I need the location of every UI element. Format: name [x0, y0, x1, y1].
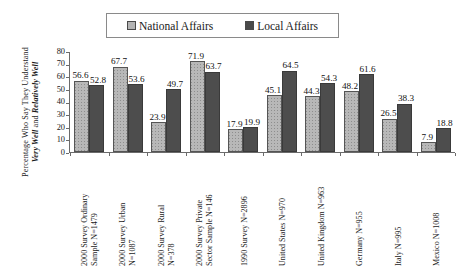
bar-wrapper: 71.9	[190, 52, 205, 152]
x-axis-category-label: 2000 Survey UrbanN=1087	[118, 154, 140, 266]
bar-local: 18.8	[436, 128, 451, 152]
bar-wrapper: 38.3	[397, 52, 412, 152]
bar-value-label: 38.3	[398, 94, 414, 103]
x-axis-category-line: 1990 Survey N=2896	[240, 196, 250, 266]
y-axis-tick-mark	[66, 52, 69, 53]
x-axis-category-label: Mexico N=1008	[432, 154, 454, 266]
bar-wrapper: 49.7	[166, 52, 181, 152]
chart-legend: National Affairs Local Affairs	[106, 13, 339, 38]
bar-group: 48.261.6	[340, 52, 379, 152]
legend-item-local-affairs: Local Affairs	[245, 20, 318, 32]
bar-wrapper: 53.6	[128, 52, 143, 152]
x-axis-category-label: 2000 Survey RuralN=378	[157, 154, 179, 266]
bar-wrapper: 48.2	[344, 52, 359, 152]
bar-group: 23.949.7	[147, 52, 186, 152]
bar-group: 17.919.9	[224, 52, 263, 152]
x-axis-category-label: 1990 Survey N=2896	[240, 154, 262, 266]
bar-local: 38.3	[397, 104, 412, 152]
y-axis-tick-mark	[66, 153, 69, 154]
plot-area: 01020304050607080 56.652.867.753.623.949…	[69, 52, 455, 153]
bar-wrapper: 26.5	[382, 52, 397, 152]
y-axis-title-line2: Very Well and Relatively Well	[31, 62, 42, 163]
bar-value-label: 49.7	[167, 80, 183, 89]
bar-national: 45.1	[267, 95, 282, 152]
legend-label-national: National Affairs	[139, 20, 213, 32]
bar-wrapper: 52.8	[89, 52, 104, 152]
bar-wrapper: 67.7	[113, 52, 128, 152]
bar-value-label: 23.9	[149, 113, 165, 122]
bar-national: 67.7	[113, 67, 128, 152]
y-axis-tick-mark	[66, 140, 69, 141]
bar-national: 56.6	[74, 81, 89, 152]
x-axis-category-label: 2000 Survey OrdinarySample N=1479	[80, 154, 102, 266]
y-axis-tick-mark	[66, 90, 69, 91]
x-axis-category-line: United Kingdom N=963	[317, 187, 327, 266]
bar-local: 49.7	[166, 89, 181, 152]
bar-value-label: 64.5	[282, 61, 298, 70]
y-axis-tick-label: 30	[49, 111, 65, 119]
y-axis-tick-mark	[66, 103, 69, 104]
x-axis-labels: 2000 Survey OrdinarySample N=14792000 Su…	[70, 154, 456, 266]
x-axis-category-label: United States N=970	[278, 154, 300, 266]
bar-local: 53.6	[128, 84, 143, 152]
bar-value-label: 56.6	[72, 71, 88, 80]
bar-value-label: 48.2	[342, 82, 358, 91]
bar-local: 19.9	[243, 127, 258, 152]
legend-item-national-affairs: National Affairs	[127, 20, 213, 32]
x-axis-category-line: 2000 Survey Rural	[156, 205, 166, 266]
bar-wrapper: 44.3	[305, 52, 320, 152]
y-axis-title-line1: Percentage Who Say They Understand	[21, 47, 32, 177]
bar-group: 26.538.3	[378, 52, 417, 152]
bar-value-label: 54.3	[321, 74, 337, 83]
x-axis-category-line: United States N=970	[278, 198, 288, 266]
x-axis-category-line: 2000 Survey Urban	[118, 203, 128, 266]
bar-wrapper: 54.3	[320, 52, 335, 152]
bar-wrapper: 63.7	[205, 52, 220, 152]
x-axis-category-label: 2000 Survey PrivateSector Sample N=146	[195, 154, 217, 266]
bar-value-label: 19.9	[244, 118, 260, 127]
bar-value-label: 61.6	[359, 65, 375, 74]
bar-value-label: 71.9	[188, 52, 204, 61]
bar-group: 67.753.6	[109, 52, 148, 152]
bar-wrapper: 61.6	[359, 52, 374, 152]
y-axis-tick-label: 80	[49, 48, 65, 56]
x-axis-category-label: Italy N=995	[394, 154, 416, 266]
bar-wrapper: 45.1	[267, 52, 282, 152]
bar-wrapper: 64.5	[282, 52, 297, 152]
y-axis-title: Percentage Who Say They Understand Very …	[16, 19, 46, 205]
legend-label-local: Local Affairs	[257, 20, 318, 32]
bar-wrapper: 19.9	[243, 52, 258, 152]
x-axis-category-label: Germany N=955	[355, 154, 377, 266]
bar-national: 17.9	[228, 129, 243, 152]
bar-value-label: 18.8	[436, 119, 452, 128]
bar-local: 61.6	[359, 74, 374, 152]
x-axis-category-line: Sample N=1479	[89, 213, 99, 266]
bar-wrapper: 23.9	[151, 52, 166, 152]
y-axis-tick-label: 50	[49, 86, 65, 94]
bar-national: 48.2	[344, 91, 359, 152]
x-axis-category-label: United Kingdom N=963	[317, 154, 339, 266]
y-axis-tick-mark	[66, 115, 69, 116]
bar-local: 52.8	[89, 85, 104, 152]
y-axis-tick-mark	[66, 128, 69, 129]
y-axis-title-very-well: Very Well	[31, 130, 40, 163]
y-axis-title-relatively-well: Relatively Well	[31, 62, 40, 113]
bar-wrapper: 56.6	[74, 52, 89, 152]
bar-national: 71.9	[190, 61, 205, 152]
x-axis-category-line: 2000 Survey Private	[195, 200, 205, 266]
y-axis-tick-label: 10	[49, 136, 65, 144]
y-axis-tick-label: 60	[49, 73, 65, 81]
y-axis-title-and: and	[31, 113, 40, 129]
bar-wrapper: 17.9	[228, 52, 243, 152]
bar-group: 56.652.8	[70, 52, 109, 152]
bar-value-label: 45.1	[265, 86, 281, 95]
y-axis-tick-label: 40	[49, 98, 65, 106]
x-axis-category-line: N=378	[166, 243, 176, 266]
y-axis-tick-label: 0	[49, 149, 65, 157]
x-axis-category-line: Sector Sample N=146	[205, 194, 215, 266]
x-axis-category-line: N=1087	[128, 239, 138, 266]
legend-swatch-icon-local	[245, 21, 254, 30]
bar-national: 7.9	[421, 142, 436, 152]
bar-wrapper: 7.9	[421, 52, 436, 152]
bar-local: 54.3	[320, 83, 335, 152]
